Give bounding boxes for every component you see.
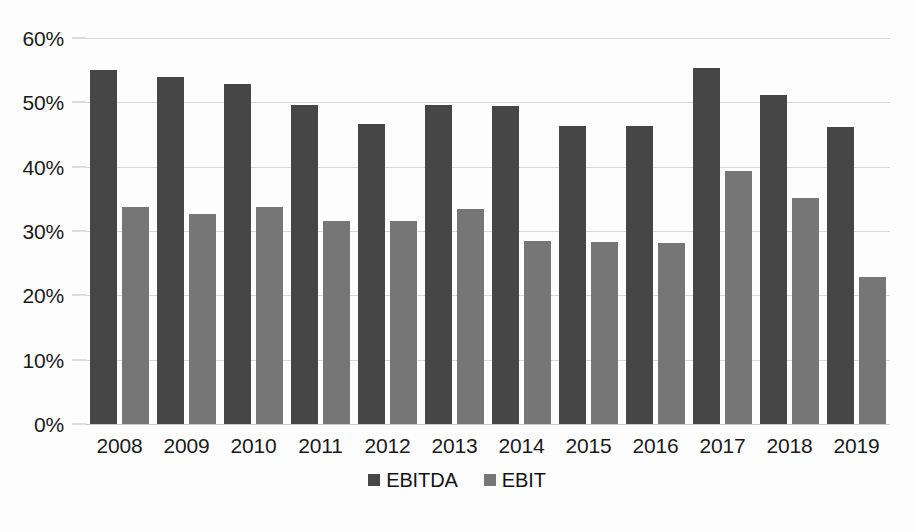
bar-ebit-2019[interactable] <box>859 277 886 424</box>
x-axis-tick-label-2013: 2013 <box>421 428 488 464</box>
bar-group-2009 <box>153 38 220 424</box>
x-axis-tick-label-2018: 2018 <box>756 428 823 464</box>
x-axis-tick-label-2014: 2014 <box>488 428 555 464</box>
legend-item-ebitda[interactable]: EBITDA <box>368 470 458 490</box>
bar-ebitda-2015[interactable] <box>559 126 586 425</box>
bar-ebitda-2012[interactable] <box>358 124 385 424</box>
y-axis-tick-label: 30% <box>23 221 64 242</box>
y-axis-tick-mark <box>72 231 86 232</box>
legend-label: EBIT <box>502 470 546 490</box>
y-axis-tick-label: 40% <box>23 156 64 177</box>
x-axis-tick-label-2015: 2015 <box>555 428 622 464</box>
bar-ebit-2010[interactable] <box>256 207 283 424</box>
bar-group-2015 <box>555 38 622 424</box>
x-axis-tick-label-2009: 2009 <box>153 428 220 464</box>
legend-label: EBITDA <box>386 470 458 490</box>
y-axis-tick-label: 10% <box>23 349 64 370</box>
x-axis-tick-label-2010: 2010 <box>220 428 287 464</box>
y-axis-tick-label: 0% <box>34 414 64 435</box>
bar-group-2012 <box>354 38 421 424</box>
bar-group-2008 <box>86 38 153 424</box>
x-axis: 2008200920102011201220132014201520162017… <box>86 428 890 464</box>
bar-ebitda-2008[interactable] <box>90 70 117 424</box>
bar-ebit-2018[interactable] <box>792 198 819 424</box>
y-axis-tick-mark <box>72 102 86 103</box>
y-axis-tick-label: 20% <box>23 285 64 306</box>
chart-legend: EBITDAEBIT <box>0 470 914 490</box>
bar-ebitda-2011[interactable] <box>291 105 318 424</box>
legend-swatch-icon <box>484 474 496 486</box>
x-axis-tick-label-2008: 2008 <box>86 428 153 464</box>
bar-group-2018 <box>756 38 823 424</box>
plot-area <box>86 38 890 424</box>
bar-ebitda-2014[interactable] <box>492 106 519 424</box>
bar-ebit-2017[interactable] <box>725 171 752 424</box>
bar-group-2017 <box>689 38 756 424</box>
y-axis: 60%50%40%30%20%10%0% <box>0 0 86 462</box>
x-axis-tick-label-2012: 2012 <box>354 428 421 464</box>
bar-group-2019 <box>823 38 890 424</box>
bar-group-2011 <box>287 38 354 424</box>
y-axis-tick-mark <box>72 166 86 167</box>
x-axis-tick-label-2011: 2011 <box>287 428 354 464</box>
bar-ebit-2008[interactable] <box>122 207 149 424</box>
x-axis-tick-label-2017: 2017 <box>689 428 756 464</box>
bar-ebit-2011[interactable] <box>323 221 350 424</box>
bar-ebit-2014[interactable] <box>524 241 551 424</box>
bar-chart: 60%50%40%30%20%10%0% 2008200920102011201… <box>0 0 914 532</box>
bars-layer <box>86 38 890 424</box>
gridline-0 <box>86 424 890 425</box>
bar-ebitda-2010[interactable] <box>224 84 251 424</box>
legend-swatch-icon <box>368 474 380 486</box>
x-axis-tick-label-2016: 2016 <box>622 428 689 464</box>
bar-ebit-2012[interactable] <box>390 221 417 424</box>
x-axis-tick-label-2019: 2019 <box>823 428 890 464</box>
bar-ebitda-2013[interactable] <box>425 105 452 424</box>
y-axis-tick-mark <box>72 424 86 425</box>
bar-ebit-2013[interactable] <box>457 209 484 424</box>
bar-ebitda-2016[interactable] <box>626 126 653 425</box>
y-axis-tick-mark <box>72 38 86 39</box>
y-axis-tick-mark <box>72 295 86 296</box>
bar-group-2014 <box>488 38 555 424</box>
bar-group-2010 <box>220 38 287 424</box>
bar-group-2013 <box>421 38 488 424</box>
bar-ebit-2015[interactable] <box>591 242 618 424</box>
y-axis-tick-label: 50% <box>23 92 64 113</box>
bar-ebitda-2017[interactable] <box>693 68 720 424</box>
bar-ebit-2009[interactable] <box>189 214 216 424</box>
legend-item-ebit[interactable]: EBIT <box>484 470 546 490</box>
bar-ebit-2016[interactable] <box>658 243 685 424</box>
y-axis-tick-mark <box>72 359 86 360</box>
bar-ebitda-2019[interactable] <box>827 127 854 424</box>
bar-group-2016 <box>622 38 689 424</box>
bar-ebitda-2018[interactable] <box>760 95 787 424</box>
bar-ebitda-2009[interactable] <box>157 77 184 424</box>
y-axis-tick-label: 60% <box>23 28 64 49</box>
